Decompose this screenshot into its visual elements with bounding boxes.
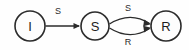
- edge-i-to-s-label: S: [55, 6, 61, 16]
- edge-s-to-r-top-label: S: [125, 3, 131, 13]
- edge-s-to-r-bottom-label: R: [125, 37, 132, 47]
- node-i-label: I: [28, 19, 32, 34]
- node-s[interactable]: S: [81, 12, 109, 40]
- edge-s-to-r-top-path: [110, 17, 150, 24]
- node-i[interactable]: I: [15, 11, 45, 41]
- edge-s-to-r-top: S: [110, 3, 152, 26]
- state-diagram: S S R I S R: [0, 0, 189, 50]
- edge-s-to-r-bottom: R: [110, 26, 152, 47]
- node-s-label: S: [91, 19, 100, 34]
- node-r-label: R: [161, 19, 170, 34]
- edge-i-to-s-arrowhead: [74, 23, 81, 29]
- edge-i-to-s: S: [46, 6, 81, 29]
- edge-s-to-r-bottom-path: [110, 28, 150, 35]
- node-r[interactable]: R: [151, 11, 181, 41]
- diagram-canvas: S S R I S R: [0, 0, 189, 50]
